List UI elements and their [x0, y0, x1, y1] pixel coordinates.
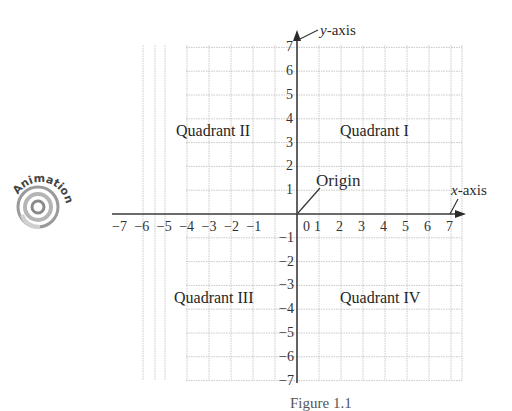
animation-swirl-icon: [18, 187, 58, 227]
y-tick-label: −1: [279, 231, 294, 245]
x-tick-label: −5: [157, 220, 172, 234]
x-tick-label: 0: [303, 220, 310, 234]
x-tick-label: −6: [134, 220, 149, 234]
quadrant-1-label: Quadrant I: [340, 123, 409, 139]
y-tick-label: −2: [279, 255, 294, 269]
y-tick-label: 2: [286, 159, 293, 173]
x-tick-label: −2: [224, 220, 239, 234]
x-tick-label: 6: [424, 220, 431, 234]
figure-caption: Figure 1.1: [290, 396, 352, 411]
x-tick-label: 5: [402, 220, 409, 234]
x-axis-label-suffix: -axis: [458, 182, 487, 198]
x-tick-label: 3: [358, 220, 365, 234]
grid-lines: [143, 45, 462, 380]
x-tick-label: 1: [314, 220, 321, 234]
x-axis-arrow-icon: [455, 210, 466, 218]
y-tick-label: −6: [279, 350, 294, 364]
x-tick-label: 4: [380, 220, 387, 234]
y-tick-label: 3: [286, 136, 293, 150]
quadrant-4-label: Quadrant IV: [340, 290, 420, 306]
y-tick-label: 7: [286, 40, 293, 54]
y-tick-label: 6: [286, 64, 293, 78]
y-tick-label: −7: [279, 374, 294, 388]
y-tick-label: 4: [286, 112, 293, 126]
quadrant-2-label: Quadrant II: [176, 123, 250, 139]
y-axis-label-suffix: -axis: [327, 22, 356, 38]
y-tick-label: −5: [279, 326, 294, 340]
y-axis-leader-line: [298, 30, 318, 40]
origin-label: Origin: [316, 172, 360, 189]
x-axis-label-var: x: [451, 182, 458, 198]
x-axis-label: x-axis: [451, 183, 487, 198]
x-tick-label: −3: [202, 220, 217, 234]
y-tick-label: 5: [286, 88, 293, 102]
x-tick-label: −4: [179, 220, 194, 234]
x-tick-label: −1: [246, 220, 261, 234]
y-tick-label: −4: [279, 302, 294, 316]
x-tick-label: 2: [336, 220, 343, 234]
y-tick-label: 1: [286, 183, 293, 197]
x-tick-label: 7: [446, 220, 453, 234]
quadrant-3-label: Quadrant III: [174, 290, 254, 306]
x-tick-label: −7: [112, 220, 127, 234]
animation-badge[interactable]: Animation: [8, 165, 78, 235]
y-tick-label: −3: [279, 278, 294, 292]
origin-leader-line: [298, 188, 320, 213]
y-axis-label-var: y: [320, 22, 327, 38]
y-axis-label: y-axis: [320, 23, 356, 38]
